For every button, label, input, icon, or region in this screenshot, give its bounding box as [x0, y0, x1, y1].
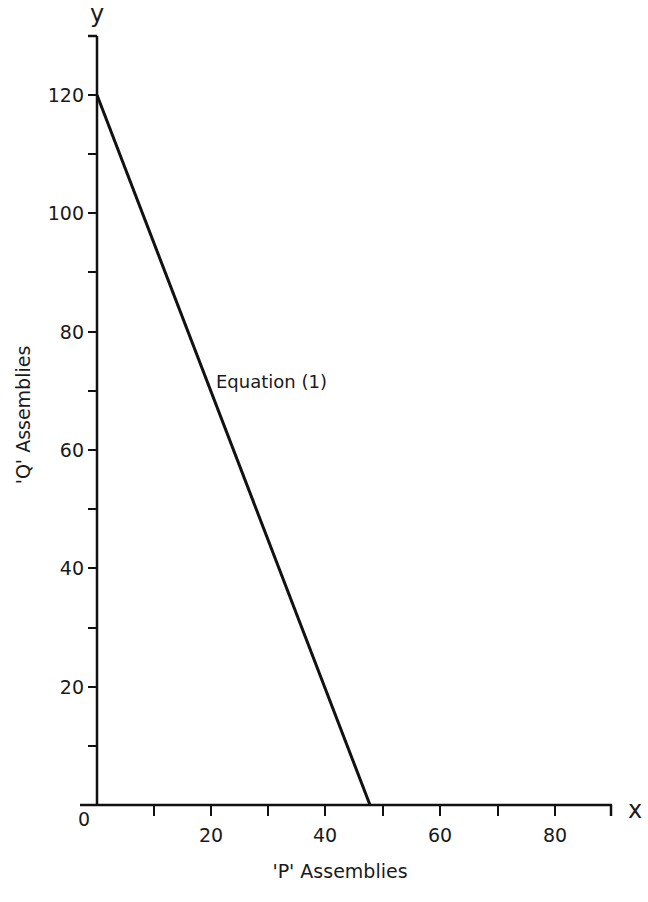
chart-canvas: 120 100 80 60 40 20 0 20 40 60 80 y x 'P…: [0, 0, 648, 902]
y-axis-title: 'Q' Assemblies: [12, 346, 34, 485]
y-tick-label-100: 100: [48, 202, 84, 224]
y-tick-label-40: 40: [60, 557, 84, 579]
x-axis-letter: x: [628, 796, 642, 824]
x-tick-label-60: 60: [428, 824, 452, 846]
x-tick-label-20: 20: [199, 824, 223, 846]
y-tick-label-60: 60: [60, 439, 84, 461]
y-axis-letter: y: [90, 0, 104, 28]
equation-annotation: Equation (1): [216, 371, 327, 392]
origin-label: 0: [78, 808, 90, 830]
x-axis-title: 'P' Assemblies: [272, 860, 407, 882]
y-tick-label-20: 20: [60, 676, 84, 698]
equation-1-line: [97, 95, 370, 805]
y-tick-label-120: 120: [48, 84, 84, 106]
y-tick-label-80: 80: [60, 321, 84, 343]
y-ticks: [88, 95, 97, 746]
x-tick-label-40: 40: [313, 824, 337, 846]
x-tick-label-80: 80: [543, 824, 567, 846]
x-ticks: [154, 805, 555, 816]
